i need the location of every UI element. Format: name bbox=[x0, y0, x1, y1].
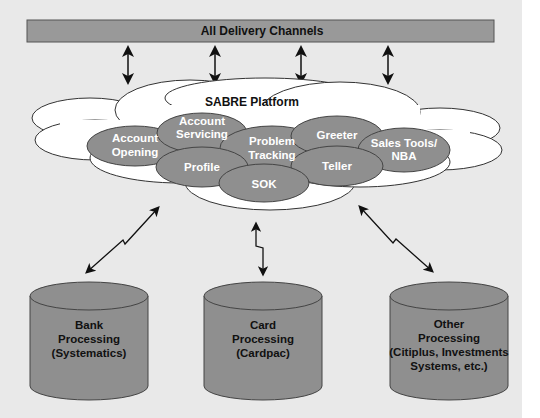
svg-text:Servicing: Servicing bbox=[176, 128, 228, 140]
diagram-canvas: All Delivery Channels SABRE Platform bbox=[0, 0, 522, 418]
delivery-channels-label: All Delivery Channels bbox=[201, 24, 324, 38]
svg-text:Account: Account bbox=[112, 132, 158, 144]
svg-text:Sales Tools/: Sales Tools/ bbox=[371, 137, 438, 149]
svg-text:NBA: NBA bbox=[392, 150, 417, 162]
svg-text:Profile: Profile bbox=[184, 161, 220, 173]
svg-text:Processing: Processing bbox=[232, 333, 294, 345]
svg-text:Opening: Opening bbox=[112, 146, 159, 158]
svg-text:Account: Account bbox=[179, 115, 225, 127]
svg-text:Processing: Processing bbox=[418, 332, 480, 344]
svg-text:Tracking: Tracking bbox=[248, 149, 295, 161]
svg-text:Processing: Processing bbox=[58, 333, 120, 345]
svg-text:(Cardpac): (Cardpac) bbox=[236, 347, 290, 359]
svg-text:Problem: Problem bbox=[249, 135, 295, 147]
svg-text:Bank: Bank bbox=[75, 319, 104, 331]
svg-text:SOK: SOK bbox=[252, 178, 278, 190]
lightning-arrow-icon bbox=[87, 208, 158, 272]
architecture-diagram: All Delivery Channels SABRE Platform bbox=[0, 0, 540, 418]
channel-arrows bbox=[128, 48, 388, 82]
svg-text:Card: Card bbox=[250, 319, 276, 331]
svg-text:(Systematics): (Systematics) bbox=[52, 347, 127, 359]
svg-text:Other: Other bbox=[434, 318, 465, 330]
svg-text:Systems, etc.): Systems, etc.) bbox=[410, 360, 488, 372]
lightning-arrow-icon bbox=[256, 224, 263, 274]
svg-text:(Citiplus, Investments: (Citiplus, Investments bbox=[389, 346, 509, 358]
platform-label: SABRE Platform bbox=[205, 95, 299, 109]
svg-text:Greeter: Greeter bbox=[317, 129, 358, 141]
delivery-channels-bar: All Delivery Channels bbox=[27, 20, 494, 42]
backend-links bbox=[87, 207, 432, 274]
lightning-arrow-icon bbox=[360, 207, 432, 271]
svg-text:Teller: Teller bbox=[322, 160, 352, 172]
